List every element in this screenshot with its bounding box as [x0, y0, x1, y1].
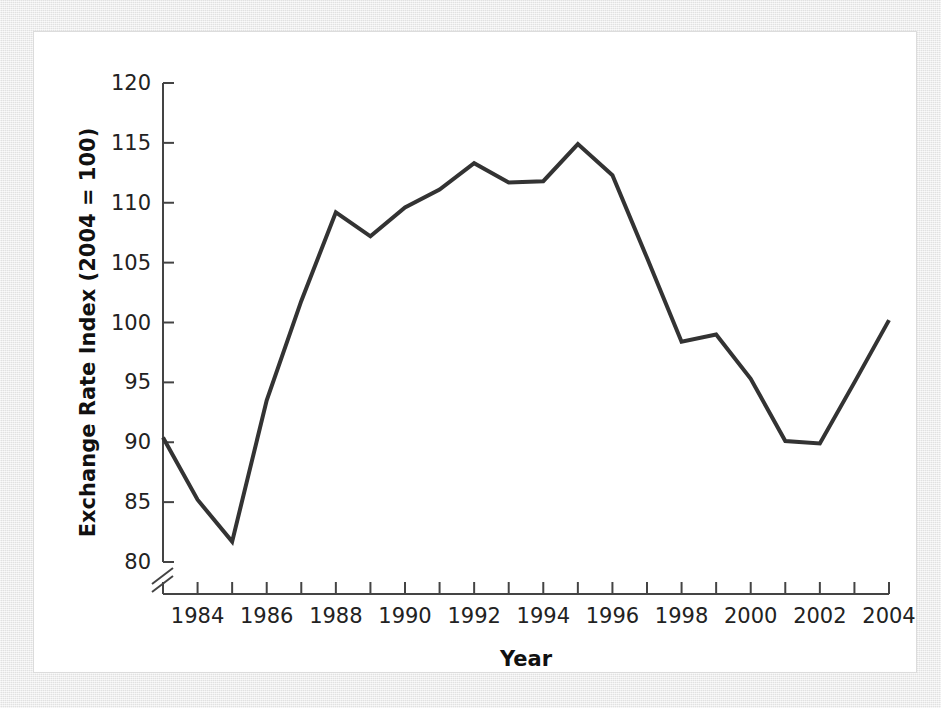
- y-axis-title: Exchange Rate Index (2004 = 100): [76, 128, 100, 538]
- x-tick-label: 2002: [793, 604, 846, 628]
- line-chart: 8085909510010511011512019841986198819901…: [34, 32, 916, 672]
- y-tick-label: 100: [111, 311, 151, 335]
- x-tick-label: 2000: [724, 604, 777, 628]
- y-tick-label: 95: [124, 370, 151, 394]
- y-tick-label: 85: [124, 490, 151, 514]
- x-tick-label: 1990: [378, 604, 431, 628]
- x-tick-label: 1986: [240, 604, 293, 628]
- y-tick-label: 80: [124, 550, 151, 574]
- y-tick-label: 120: [111, 71, 151, 95]
- y-tick-label: 115: [111, 131, 151, 155]
- figure-panel: 8085909510010511011512019841986198819901…: [34, 32, 916, 672]
- x-tick-label: 1996: [586, 604, 639, 628]
- x-tick-label: 1984: [171, 604, 224, 628]
- chart-render-root: 8085909510010511011512019841986198819901…: [76, 71, 916, 671]
- x-tick-label: 1992: [447, 604, 500, 628]
- x-axis-title: Year: [499, 647, 553, 671]
- x-tick-label: 2004: [862, 604, 915, 628]
- data-series-line: [163, 144, 889, 542]
- y-tick-label: 90: [124, 430, 151, 454]
- x-tick-label: 1998: [655, 604, 708, 628]
- x-tick-label: 1994: [517, 604, 570, 628]
- y-tick-label: 110: [111, 191, 151, 215]
- y-tick-label: 105: [111, 251, 151, 275]
- figure-outer-frame: 8085909510010511011512019841986198819901…: [0, 0, 941, 708]
- x-tick-label: 1988: [309, 604, 362, 628]
